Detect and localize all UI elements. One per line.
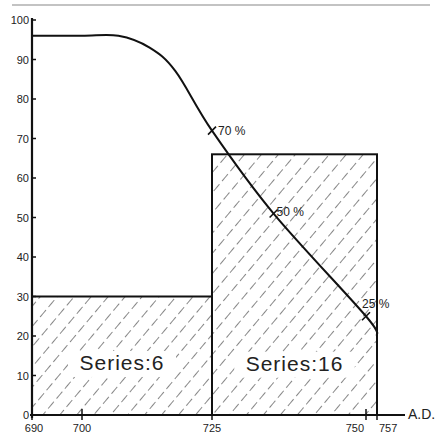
x-tick-label: 690	[25, 422, 43, 434]
x-tick-label: 725	[203, 422, 221, 434]
bar-1: Series:6	[32, 297, 212, 416]
x-axis-title: A.D.	[408, 406, 435, 422]
bars: Series:6Series:16	[32, 154, 377, 415]
annotation-label: 70 %	[218, 124, 246, 138]
chart: Series:6Series:16 70 %50 %25 % 010203040…	[0, 0, 442, 438]
y-tick-label: 70	[17, 133, 29, 145]
y-tick-label: 60	[17, 172, 29, 184]
x-tick-label: 750	[346, 422, 364, 434]
y-tick-label: 10	[17, 370, 29, 382]
annotation-label: 25 %	[362, 297, 390, 311]
y-tick-label: 80	[17, 93, 29, 105]
bar-label: Series:6	[79, 351, 164, 374]
y-tick-label: 90	[17, 54, 29, 66]
bar-2: Series:16	[212, 154, 377, 415]
y-tick-label: 0	[23, 409, 29, 421]
y-tick-label: 40	[17, 251, 29, 263]
x-tick-label: 757	[379, 422, 397, 434]
y-tick-label: 20	[17, 330, 29, 342]
bar-label: Series:16	[246, 352, 344, 375]
y-tick-label: 100	[11, 14, 29, 26]
annotation-70-pct: 70 %	[208, 124, 246, 138]
y-tick-label: 50	[17, 212, 29, 224]
annotation-label: 50 %	[277, 205, 305, 219]
x-tick-label: 700	[73, 422, 91, 434]
y-tick-label: 30	[17, 291, 29, 303]
